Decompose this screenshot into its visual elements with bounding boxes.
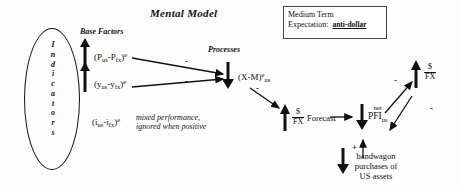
fx-right-up-arrow bbox=[411, 60, 421, 88]
formula-part: (P bbox=[94, 52, 102, 62]
factor-income-differential: (yus-yfx)e bbox=[94, 79, 126, 91]
factor-interest-differential: (ius-ifx)e bbox=[92, 117, 120, 129]
process-to-fx-arrow bbox=[250, 88, 279, 108]
formula-part: PFI bbox=[368, 111, 382, 121]
net-pfi-stack: net PFIus bbox=[368, 105, 388, 123]
fraction-numerator: $ bbox=[424, 63, 436, 71]
formula-part: -y bbox=[107, 79, 115, 89]
bandwagon-label: bandwagon purchases of US assets bbox=[334, 152, 418, 181]
indicators-letter: I bbox=[45, 40, 61, 50]
indicators-label: I n d i c a t o r s bbox=[45, 40, 61, 138]
indicators-letter: n bbox=[45, 50, 61, 60]
net-pfi-term: PFIus bbox=[368, 112, 388, 123]
factor-interest-note: mixed performance, ignored when positive bbox=[136, 114, 206, 132]
fraction-denominator: FX bbox=[292, 117, 304, 126]
base-factors-heading: Base Factors bbox=[80, 28, 123, 36]
dollar-fx-fraction: $ FX bbox=[292, 108, 304, 126]
formula-part: (y bbox=[94, 79, 102, 89]
medium-term-label: Expectation: bbox=[288, 20, 328, 29]
indicators-letter: i bbox=[45, 69, 61, 79]
formula-superscript: e bbox=[117, 116, 120, 123]
formula-part: -P bbox=[108, 52, 116, 62]
net-exports-expression: (X-M)eus bbox=[238, 72, 270, 84]
dollar-fx-fraction-right: $ FX bbox=[424, 63, 436, 81]
sign-minus-pfi: - bbox=[394, 76, 397, 85]
fx-forecast-up-arrow bbox=[280, 104, 290, 131]
fx-to-bandwagon-arrow bbox=[390, 96, 412, 130]
formula-superscript: e bbox=[124, 51, 127, 58]
diagram-title: Mental Model bbox=[150, 8, 217, 19]
fx-rate-forecast-fraction: $ FX bbox=[292, 108, 304, 126]
sign-minus-process: - bbox=[256, 84, 259, 93]
medium-term-line1: Medium Term bbox=[288, 10, 382, 20]
medium-term-expectation-box: Medium Term Expectation:anti-dollar bbox=[283, 6, 387, 39]
indicators-letter: c bbox=[45, 79, 61, 89]
medium-term-value: anti-dollar bbox=[328, 20, 366, 29]
indicators-letter: t bbox=[45, 99, 61, 109]
indicators-letter: r bbox=[45, 118, 61, 128]
base-factor-up-arrows bbox=[80, 38, 90, 92]
indicators-letter: o bbox=[45, 108, 61, 118]
factor-to-process-arrows bbox=[132, 58, 223, 87]
processes-heading: Processes bbox=[208, 46, 240, 54]
factor-interest-note-line2: ignored when positive bbox=[136, 123, 206, 132]
net-exports-down-arrow bbox=[222, 62, 234, 89]
net-pfi-down-arrow bbox=[356, 104, 368, 130]
pfi-to-fx-arrow bbox=[385, 82, 412, 113]
formula-subscript: us bbox=[264, 76, 270, 83]
forecast-label: Forecast bbox=[307, 114, 336, 123]
formula-subscript: us bbox=[382, 115, 388, 122]
net-pfi-expression: net PFIus bbox=[368, 105, 388, 123]
formula-superscript: e bbox=[123, 78, 126, 85]
medium-term-line2-row: Expectation:anti-dollar bbox=[288, 20, 382, 30]
factor-price-differential: (Pus-Pfx)e bbox=[94, 52, 127, 64]
sign-minus-fx-right: - bbox=[430, 104, 433, 113]
indicators-letter: d bbox=[45, 60, 61, 70]
sign-minus-factor1: - bbox=[185, 57, 188, 66]
fx-rate-right-fraction: $ FX bbox=[424, 63, 436, 81]
mental-model-diagram: I n d i c a t o r s Mental Model Base Fa… bbox=[0, 0, 459, 189]
fraction-numerator: $ bbox=[292, 108, 304, 116]
formula-part: (X-M) bbox=[238, 72, 262, 82]
fraction-denominator: FX bbox=[424, 72, 436, 81]
sign-minus-factor2: - bbox=[185, 77, 188, 86]
indicators-letter: s bbox=[45, 128, 61, 138]
bandwagon-line3: US assets bbox=[334, 172, 418, 182]
indicators-letter: a bbox=[45, 89, 61, 99]
